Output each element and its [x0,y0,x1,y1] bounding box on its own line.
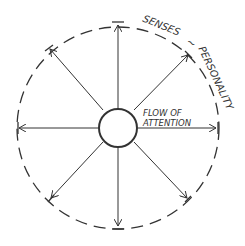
attention-label: ATTENTION [142,118,192,128]
arrow-down-left [51,142,103,198]
center-circle [99,109,137,147]
personality-label: PERSONALITY [196,45,235,113]
arrow-up-left [50,49,103,110]
flow-of-label: FLOW OF [143,108,182,118]
attention-flow-diagram: SENSES ~ PERSONALITY FLOW OF ATTENTION [0,0,245,246]
arrow-up-right [134,55,188,110]
senses-label: SENSES [141,13,182,38]
arrow-down-right [134,142,187,198]
